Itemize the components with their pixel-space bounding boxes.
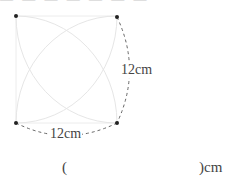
vertex-top-right (115, 15, 119, 19)
vertex-bottom-right (115, 121, 119, 125)
right-side-length-label: 12cm (121, 62, 152, 78)
square-arc-diagram (0, 0, 227, 182)
vertex-bottom-left (14, 121, 18, 125)
answer-blank[interactable] (72, 158, 194, 176)
answer-open-paren: ( (62, 159, 67, 176)
answer-close-unit: )cm (199, 159, 222, 176)
bottom-side-length-label: 12cm (49, 127, 82, 141)
vertex-top-left (14, 14, 18, 18)
square-outline (16, 16, 117, 123)
inner-quarter-arcs (16, 16, 117, 123)
